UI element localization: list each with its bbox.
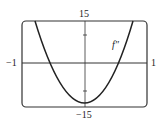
plot-frame — [22, 21, 147, 107]
curve-label: f″ — [112, 40, 119, 50]
x-max-label: 1 — [151, 58, 156, 68]
y-max-label: 15 — [79, 9, 89, 19]
y-min-label: −15 — [76, 110, 92, 120]
x-min-label: −1 — [6, 58, 17, 68]
